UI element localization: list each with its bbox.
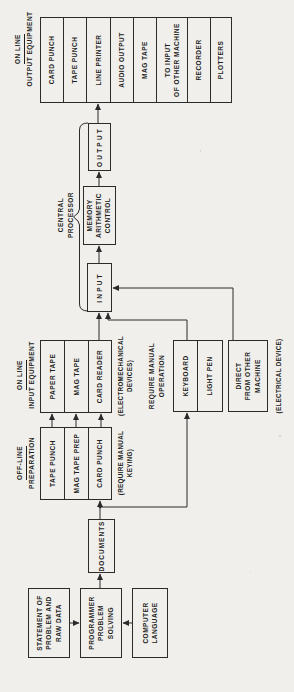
junction-dot xyxy=(99,506,102,509)
box-documents: DOCUMENTS xyxy=(88,519,115,573)
row-plotters: PLOTTERS xyxy=(211,18,231,102)
heading-line2: OPERATION xyxy=(158,355,165,398)
row-label: MAG TAPE xyxy=(140,41,149,79)
box-label: STATEMENT OF PROBLEM AND RAW DATA xyxy=(35,595,62,651)
heading-line2: OUTPUT EQUIPMENT xyxy=(26,11,33,86)
box-memory-arithmetic-control: MEMORY ARITHMETIC CONTROL xyxy=(83,186,116,245)
row-card-punch: CARD PUNCH xyxy=(41,18,64,102)
box-programmer-problem-solving: PROGRAMMER PROBLEM SOLVING xyxy=(80,588,122,658)
row-label: KEYBOARD xyxy=(181,355,190,396)
box-label: PROGRAMMER PROBLEM SOLVING xyxy=(87,596,114,649)
box-label: DOCUMENTS xyxy=(97,521,106,572)
row-label: PLOTTERS xyxy=(216,41,225,80)
heading-central-processor: CENTRAL PROCESSOR xyxy=(56,184,77,246)
heading-require-manual-operation: REQUIRE MANUAL OPERATION xyxy=(147,336,168,416)
box-label: INPUT xyxy=(95,272,104,303)
box-label: COMPUTER LANGUAGE xyxy=(141,602,159,643)
heading-line1: REQUIRE MANUAL xyxy=(148,343,155,410)
scan-speck xyxy=(250,571,251,572)
row-card-reader: CARD READER xyxy=(89,341,111,412)
box-label: OUTPUT xyxy=(95,127,104,167)
box-label: DIRECT FROM OTHER MACHINE xyxy=(234,352,261,401)
row-keyboard: KEYBOARD xyxy=(174,341,198,411)
box-computer-language: COMPUTER LANGUAGE xyxy=(132,588,168,658)
row-paper-tape: PAPER TAPE xyxy=(41,341,65,412)
row-tape-punch: TAPE PUNCH xyxy=(41,428,65,499)
row-label: TAPE PUNCH xyxy=(48,440,57,487)
heading-offline-preparation: OFF-LINE PREPARATION xyxy=(15,417,37,509)
box-input: INPUT xyxy=(87,263,112,312)
heading-line2: PREPARATION xyxy=(28,437,35,489)
row-label: LINE PRINTER xyxy=(94,34,103,85)
row-tape-punch: TAPE PUNCH xyxy=(64,18,87,102)
row-card-punch: CARD PUNCH xyxy=(89,428,111,499)
box-label: MEMORY ARITHMETIC CONTROL xyxy=(86,193,112,238)
box-direct-from-other-machine: DIRECT FROM OTHER MACHINE xyxy=(228,340,268,412)
stack-online-input-equipment: PAPER TAPE MAG TAPE CARD READER xyxy=(40,340,112,413)
box-output: OUTPUT xyxy=(88,123,111,171)
row-label: RECORDER xyxy=(194,39,203,80)
diagram-canvas: STATEMENT OF PROBLEM AND RAW DATA PROGRA… xyxy=(0,0,294,692)
row-label: TO INPUT OF OTHER MACHINE xyxy=(163,23,181,97)
row-mag-tape: MAG TAPE xyxy=(65,341,89,412)
heading-line2: PROCESSOR xyxy=(67,192,74,238)
scan-speck xyxy=(200,150,201,152)
row-label: CARD PUNCH xyxy=(95,439,104,488)
scanned-page: STATEMENT OF PROBLEM AND RAW DATA PROGRA… xyxy=(0,0,294,692)
heading-line1: CENTRAL xyxy=(57,198,64,233)
stack-online-output-equipment: CARD PUNCH TAPE PUNCH LINE PRINTER AUDIO… xyxy=(40,17,232,103)
row-label: TAPE PUNCH xyxy=(70,37,79,84)
row-label: PAPER TAPE xyxy=(48,354,57,400)
row-mag-tape: MAG TAPE xyxy=(134,18,157,102)
heading-line1: ON LINE xyxy=(13,34,25,64)
note-electromechanical-devices: (ELECTROMECHANICAL DEVICES) xyxy=(116,327,135,425)
note-require-manual-keying: (REQUIRE MANUAL KEYING) xyxy=(116,414,135,512)
stack-offline-preparation: TAPE PUNCH MAG TAPE PREP CARD PUNCH xyxy=(40,427,112,500)
row-label: AUDIO OUTPUT xyxy=(117,32,126,87)
heading-online-output-equipment: ON LINE OUTPUT EQUIPMENT xyxy=(13,5,35,93)
row-line-printer: LINE PRINTER xyxy=(87,18,111,102)
row-label: LIGHT PEN xyxy=(205,356,214,395)
row-light-pen: LIGHT PEN xyxy=(198,341,222,411)
heading-online-input-equipment: ON LINE INPUT EQUIPMENT xyxy=(15,335,37,415)
box-statement-of-problem: STATEMENT OF PROBLEM AND RAW DATA xyxy=(28,588,70,658)
row-recorder: RECORDER xyxy=(188,18,211,102)
row-label: MAG TAPE xyxy=(72,358,81,396)
heading-line2: INPUT EQUIPMENT xyxy=(28,341,35,408)
row-audio-output: AUDIO OUTPUT xyxy=(111,18,134,102)
stack-manual-operation: KEYBOARD LIGHT PEN xyxy=(173,340,223,412)
note-electrical-device: (ELECTRICAL DEVICE) xyxy=(274,327,283,425)
heading-line1: OFF-LINE xyxy=(15,446,27,480)
row-mag-tape-prep: MAG TAPE PREP xyxy=(65,428,89,499)
row-label: CARD PUNCH xyxy=(47,36,56,85)
heading-line1: ON LINE xyxy=(15,360,27,390)
arrow-documents-to-manual xyxy=(100,413,187,507)
scan-speck xyxy=(279,435,281,437)
row-label: MAG TAPE PREP xyxy=(72,434,81,494)
row-label: CARD READER xyxy=(95,350,104,404)
row-to-input-of-other-machine: TO INPUT OF OTHER MACHINE xyxy=(157,18,188,102)
